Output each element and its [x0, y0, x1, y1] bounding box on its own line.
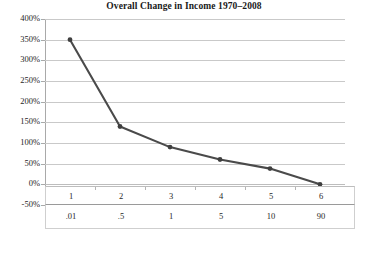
data-point-marker	[218, 157, 223, 162]
chart-container: Overall Change in Income 1970–2008 400%3…	[0, 0, 368, 255]
gridline	[45, 143, 345, 144]
y-axis-tick	[41, 143, 45, 144]
y-axis-label-wrap: 350%	[0, 35, 40, 45]
x-axis-value-label: 1	[146, 205, 196, 227]
y-axis-tick	[41, 40, 45, 41]
y-axis-label-wrap: -50%	[0, 200, 40, 210]
x-axis-index-label: 4	[196, 187, 246, 205]
gridline	[45, 122, 345, 123]
y-axis-line	[45, 19, 46, 205]
y-axis-label: 350%	[2, 35, 40, 44]
y-axis-label-wrap: 250%	[0, 76, 40, 86]
y-axis-label: 50%	[2, 159, 40, 168]
y-axis-tick	[41, 81, 45, 82]
y-axis-tick	[41, 19, 45, 20]
y-axis-label-wrap: 300%	[0, 55, 40, 65]
y-axis-label: 300%	[2, 55, 40, 64]
x-axis-value-label: 10	[246, 205, 296, 227]
data-point-marker	[118, 124, 123, 129]
y-axis-label: 400%	[2, 14, 40, 23]
x-axis-index-row: 123456	[45, 186, 355, 205]
y-axis-label: 0%	[2, 179, 40, 188]
gridline	[45, 184, 345, 185]
x-axis-index-label: 2	[96, 187, 146, 205]
y-axis-tick	[41, 60, 45, 61]
y-axis-label: 250%	[2, 76, 40, 85]
data-point-marker	[168, 145, 173, 150]
gridline	[45, 60, 345, 61]
x-axis-value-label: .01	[46, 205, 96, 227]
y-axis-label-wrap: 0%	[0, 179, 40, 189]
x-axis-value-label: 90	[296, 205, 346, 227]
x-axis-index-label: 6	[296, 187, 346, 205]
x-axis-value-label: .5	[96, 205, 146, 227]
x-axis-index-label: 5	[246, 187, 296, 205]
y-axis-label: 100%	[2, 138, 40, 147]
y-axis-label-wrap: 100%	[0, 138, 40, 148]
x-axis-index-label: 1	[46, 187, 96, 205]
y-axis-label-wrap: 50%	[0, 159, 40, 169]
x-axis-value-row: .01.5151090	[45, 205, 355, 229]
gridline	[45, 19, 345, 20]
y-axis-label-wrap: 400%	[0, 14, 40, 24]
x-axis-label-table: 123456 .01.5151090	[45, 186, 355, 234]
y-axis-label: 150%	[2, 117, 40, 126]
chart-title: Overall Change in Income 1970–2008	[0, 1, 368, 11]
y-axis-tick	[41, 102, 45, 103]
x-axis-index-label: 3	[146, 187, 196, 205]
y-axis-label-wrap: 150%	[0, 117, 40, 127]
y-axis-tick	[41, 164, 45, 165]
y-axis-tick	[41, 122, 45, 123]
data-point-marker	[268, 166, 273, 171]
y-axis-tick	[41, 184, 45, 185]
y-axis-label: 200%	[2, 97, 40, 106]
y-axis-label-wrap: 200%	[0, 97, 40, 107]
x-axis-value-label: 5	[196, 205, 246, 227]
gridline	[45, 40, 345, 41]
y-axis-label: -50%	[2, 200, 40, 209]
gridline	[45, 81, 345, 82]
gridline	[45, 102, 345, 103]
gridline	[45, 164, 345, 165]
